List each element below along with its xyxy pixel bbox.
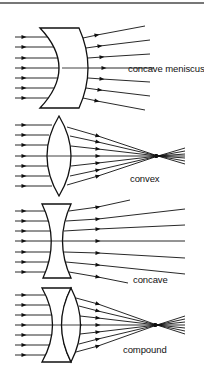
convex-diagram: [15, 116, 185, 196]
label-concave-meniscus: concave meniscus: [128, 63, 204, 74]
incoming-rays: [15, 211, 51, 272]
lens-diagram: [0, 0, 204, 375]
concave-diagram: [15, 200, 185, 283]
converging-rays: [67, 127, 185, 185]
label-concave: concave: [133, 274, 168, 285]
label-compound: compound: [123, 344, 167, 355]
incoming-rays: [15, 295, 53, 355]
diverging-rays: [63, 200, 185, 283]
label-convex: convex: [130, 173, 160, 184]
